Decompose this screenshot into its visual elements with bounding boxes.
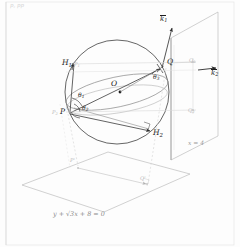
bottom-plane: [22, 152, 190, 212]
page-frame: [6, 2, 234, 245]
vector-k1-arrow: [162, 28, 172, 68]
right-plane: [171, 12, 218, 160]
figure-root: p, pp P Q H1 H2 O θ1 θ2 θ3 k1 k2 x = 4 y…: [0, 0, 240, 247]
ray-P-to-H2: [70, 114, 150, 131]
geometry-diagram: [0, 0, 240, 247]
sphere-great-circles: [63, 67, 171, 121]
bottom-plane-projection-line: [78, 168, 146, 184]
ray-incoming-to-P: [70, 63, 74, 112]
projection-guides-horizontal: [66, 62, 196, 112]
vector-k2-arrow: [198, 68, 216, 70]
sphere-outline: [65, 40, 169, 144]
projection-guides-vertical-right: [174, 45, 193, 150]
right-angle-H2: [144, 122, 150, 130]
